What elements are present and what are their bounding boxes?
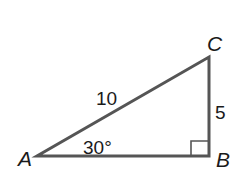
vertex-label-a: A xyxy=(18,148,32,169)
triangle-figure xyxy=(0,0,236,185)
vertex-label-b: B xyxy=(216,149,230,170)
right-angle-marker xyxy=(191,141,209,156)
leg-bc-length-label: 5 xyxy=(215,103,226,122)
hypotenuse-length-label: 10 xyxy=(96,89,117,108)
triangle-abc xyxy=(37,57,209,156)
vertex-label-c: C xyxy=(207,33,222,54)
triangle-diagram: A B C 10 5 30° xyxy=(0,0,236,185)
angle-a-label: 30° xyxy=(83,138,112,157)
